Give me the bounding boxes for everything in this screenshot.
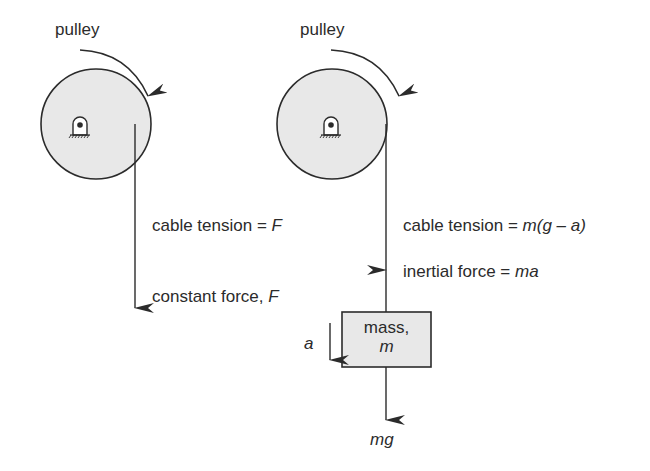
right-cable-tension-label: cable tension = m(g – a) xyxy=(403,216,586,236)
weight-label: mg xyxy=(370,430,394,450)
inertial-force-prefix: inertial force = xyxy=(403,262,515,281)
left-cable-tension-label: cable tension = F xyxy=(152,216,282,236)
left-tension-prefix: cable tension = xyxy=(152,216,272,235)
mass-box-label: mass, m xyxy=(342,318,431,356)
mass-box-line2: m xyxy=(342,337,431,356)
inertial-force-label: inertial force = ma xyxy=(403,262,539,282)
right-tension-expr: m(g – a) xyxy=(523,216,586,235)
constant-force-label: constant force, F xyxy=(152,287,279,307)
right-pulley xyxy=(277,69,387,179)
mass-box-line1: mass, xyxy=(342,318,431,337)
inertial-force-expr: ma xyxy=(515,262,539,281)
left-pulley-label: pulley xyxy=(55,20,99,40)
constant-force-var: F xyxy=(268,287,278,306)
right-tension-prefix: cable tension = xyxy=(403,216,523,235)
acceleration-label: a xyxy=(304,334,313,354)
left-tension-var: F xyxy=(272,216,282,235)
right-pulley-label: pulley xyxy=(300,20,344,40)
constant-force-prefix: constant force, xyxy=(152,287,268,306)
